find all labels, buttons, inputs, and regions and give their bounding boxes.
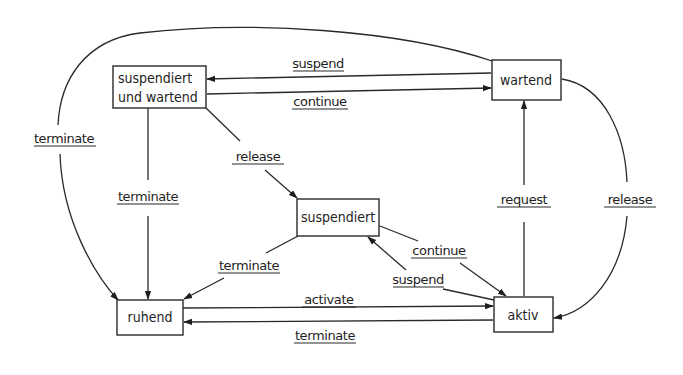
state-label: wartend <box>500 72 552 88</box>
state-diagram: suspendiert und wartend wartend suspendi… <box>0 0 683 375</box>
state-label: suspendiert <box>301 209 375 225</box>
transition-label: terminate <box>118 189 179 204</box>
transition-label: request <box>501 192 548 207</box>
state-ruhend: ruhend <box>117 300 183 335</box>
transition-label: terminate <box>295 328 356 343</box>
label-release-mid: release <box>232 149 284 164</box>
label-terminate-susp: terminate <box>218 258 280 273</box>
state-label: ruhend <box>128 309 173 325</box>
state-label: und wartend <box>118 89 198 105</box>
transition-label: terminate <box>219 258 280 273</box>
label-release-right: release <box>604 192 656 207</box>
edge-continue-top <box>207 88 491 94</box>
label-suspend-mid: suspend <box>392 272 444 287</box>
state-suspendiert-und-wartend: suspendiert und wartend <box>113 66 206 108</box>
label-suspend-top: suspend <box>292 56 344 71</box>
state-aktiv: aktiv <box>494 297 553 332</box>
state-label: suspendiert <box>118 70 192 86</box>
edge-terminate-bottom <box>184 320 493 322</box>
transition-label: suspend <box>392 272 444 287</box>
label-request: request <box>497 192 551 207</box>
state-wartend: wartend <box>492 60 561 100</box>
label-terminate-left: terminate <box>117 189 179 204</box>
label-terminate-outer: terminate <box>34 131 96 146</box>
transition-label: release <box>236 149 281 164</box>
transition-label: release <box>608 192 653 207</box>
transition-label: suspend <box>292 56 344 71</box>
transition-label: continue <box>412 243 466 258</box>
label-activate: activate <box>302 292 356 307</box>
edge-suspend-top <box>207 73 491 79</box>
label-continue-mid: continue <box>411 243 467 258</box>
transition-label: continue <box>293 94 347 109</box>
state-suspendiert: suspendiert <box>297 199 379 236</box>
state-label: aktiv <box>508 307 539 323</box>
transition-label: activate <box>304 292 354 307</box>
label-continue-top: continue <box>292 94 348 109</box>
label-terminate-bottom: terminate <box>294 328 356 343</box>
transition-label: terminate <box>34 131 95 146</box>
